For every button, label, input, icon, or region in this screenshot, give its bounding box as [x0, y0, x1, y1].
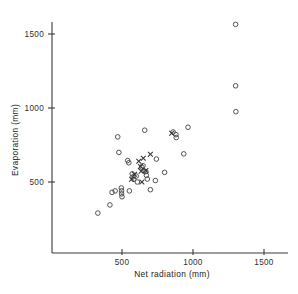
data-point-circle [135, 180, 140, 185]
data-point-circle [153, 178, 158, 183]
data-point-circle [142, 128, 147, 133]
data-points [96, 22, 239, 215]
data-point-circle [181, 152, 186, 157]
x-tick-label: 500 [115, 258, 130, 267]
y-tick-label: 500 [29, 178, 44, 187]
data-point-circle [234, 109, 239, 114]
data-point-circle [154, 157, 159, 162]
axis-ticks [48, 34, 264, 255]
data-point-circle [148, 187, 153, 192]
data-point-cross [136, 159, 141, 164]
data-point-circle [108, 203, 113, 208]
plot-canvas: 5001000150050010001500 Net radiation (mm… [0, 0, 298, 294]
data-point-circle [186, 125, 191, 130]
data-point-circle [233, 22, 238, 27]
axis-tick-labels: 5001000150050010001500 [25, 30, 274, 267]
data-point-circle [174, 135, 179, 140]
data-point-circle [96, 211, 101, 216]
data-point-circle [127, 189, 132, 194]
x-tick-label: 1000 [183, 258, 203, 267]
data-point-circle [162, 170, 167, 175]
x-tick-label: 1500 [254, 258, 274, 267]
y-tick-label: 1000 [25, 104, 45, 113]
data-point-cross [148, 152, 153, 157]
y-tick-label: 1500 [25, 30, 45, 39]
scatter-plot-figure: 5001000150050010001500 Net radiation (mm… [0, 0, 298, 294]
data-point-circle [117, 150, 122, 155]
axes [52, 22, 288, 253]
data-point-circle [120, 195, 125, 200]
data-point-circle [115, 135, 120, 140]
data-point-cross [139, 180, 144, 185]
data-point-cross [169, 131, 174, 136]
y-axis-title: Evaporation (mm) [10, 104, 20, 176]
x-axis-title: Net radiation (mm) [134, 269, 210, 279]
data-point-circle [233, 84, 238, 89]
data-point-cross [141, 156, 146, 161]
